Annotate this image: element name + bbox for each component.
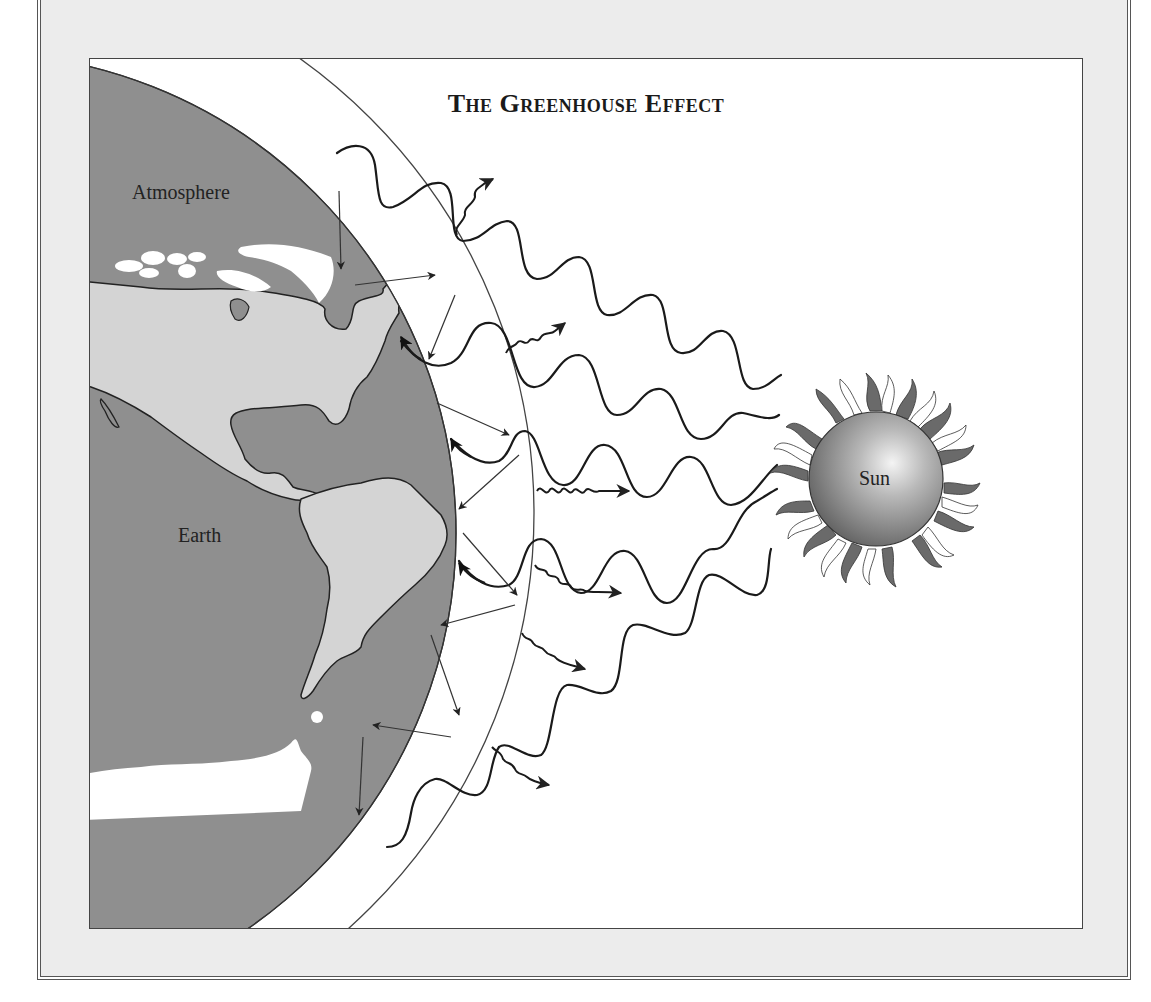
diagram-panel: The Greenhouse Effect: [89, 58, 1083, 929]
sun-label: Sun: [859, 467, 890, 490]
greenhouse-illustration: [90, 59, 1083, 929]
earth-label: Earth: [178, 524, 221, 547]
atmosphere-label: Atmosphere: [132, 181, 230, 204]
